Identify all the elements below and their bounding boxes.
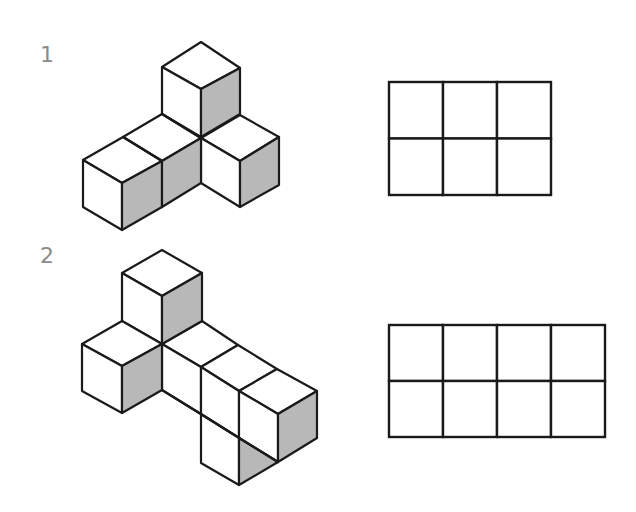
grid-cell — [497, 325, 551, 381]
grid-cell — [443, 325, 497, 381]
grid-cell — [497, 82, 551, 139]
grid-cell — [443, 381, 497, 437]
cube-figure-1 — [83, 42, 279, 230]
grid-cell — [389, 325, 443, 381]
diagram-canvas — [0, 0, 636, 512]
answer-grid-2 — [389, 325, 605, 437]
grid-cell — [497, 381, 551, 437]
grid-cell — [389, 139, 443, 196]
grid-cell — [443, 139, 497, 196]
grid-cell — [497, 139, 551, 196]
cube-figure-2 — [82, 250, 317, 485]
grid-cell — [389, 381, 443, 437]
grid-cell — [389, 82, 443, 139]
grid-cell — [551, 381, 605, 437]
answer-grid-1 — [389, 82, 551, 195]
grid-cell — [551, 325, 605, 381]
grid-cell — [443, 82, 497, 139]
